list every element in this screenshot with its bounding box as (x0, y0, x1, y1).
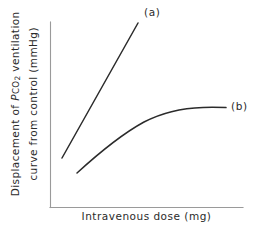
y-axis-label-line-2: curve from control (mmHg) (25, 11, 39, 196)
y-axis-label-suffix: ventilation (8, 11, 20, 75)
x-axis-label: Intravenous dose (mg) (50, 211, 243, 222)
y-axis-label-rotated: Displacement of PCO2 ventilation curve f… (7, 11, 39, 196)
figure-dose-response-chart: (a) (b) Intravenous dose (mg) Displaceme… (0, 0, 263, 238)
y-axis-label: Displacement of PCO2 ventilation curve f… (0, 0, 46, 207)
curve-a-path (62, 23, 138, 158)
y-axis-label-line-1: Displacement of PCO2 ventilation (7, 11, 25, 196)
y-axis-label-prefix: Displacement of (8, 101, 20, 196)
pressure-symbol: P (8, 94, 20, 101)
co2-subscript-letters: CO (10, 80, 20, 94)
curve-b-label: (b) (231, 101, 248, 112)
co2-subscript-number: 2 (13, 75, 22, 80)
curve-a-label: (a) (144, 7, 160, 18)
curve-b-path (77, 107, 226, 173)
